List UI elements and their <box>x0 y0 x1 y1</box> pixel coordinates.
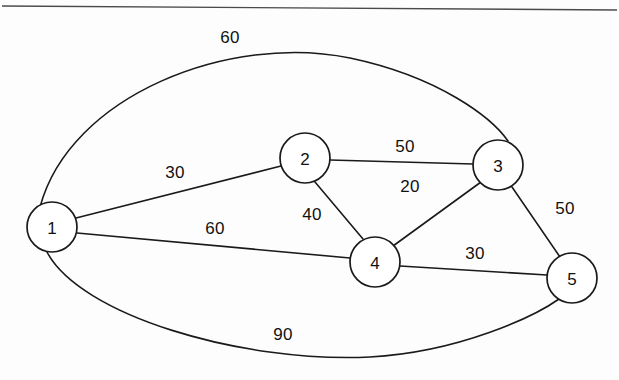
edge-group <box>40 52 560 357</box>
node-5[interactable]: 5 <box>547 253 597 303</box>
node-3[interactable]: 3 <box>473 140 523 190</box>
edge-4-5-line[interactable] <box>400 266 547 275</box>
edge-label-4-5: 30 <box>465 244 485 263</box>
node-4-label: 4 <box>370 254 379 273</box>
edge-1-3-arc[interactable] <box>40 52 508 207</box>
edge-label-1-2: 30 <box>165 163 185 182</box>
node-2[interactable]: 2 <box>280 133 330 183</box>
edge-label-3-4: 20 <box>400 177 420 196</box>
node-1-label: 1 <box>47 219 56 238</box>
node-4[interactable]: 4 <box>350 237 400 287</box>
edge-1-5-arc[interactable] <box>47 252 559 358</box>
edge-2-3-line[interactable] <box>330 160 473 164</box>
edge-label-2-4: 40 <box>302 205 322 224</box>
edge-label-2-3: 50 <box>395 137 415 156</box>
edge-label-1-4: 60 <box>205 219 225 238</box>
graph-diagram-canvas: 60 30 50 20 40 60 50 30 90 1 2 3 <box>0 0 619 380</box>
edge-label-1-3: 60 <box>220 28 240 47</box>
edge-3-5-line[interactable] <box>512 187 560 257</box>
scan-border-line <box>2 6 617 10</box>
graph-svg: 60 30 50 20 40 60 50 30 90 1 2 3 <box>0 0 619 380</box>
node-2-label: 2 <box>300 150 309 169</box>
edge-label-3-5: 50 <box>555 199 575 218</box>
node-3-label: 3 <box>493 157 502 176</box>
edge-label-1-5: 90 <box>273 325 293 344</box>
edge-2-4-line[interactable] <box>315 182 363 239</box>
node-1[interactable]: 1 <box>27 202 77 252</box>
node-5-label: 5 <box>567 270 576 289</box>
